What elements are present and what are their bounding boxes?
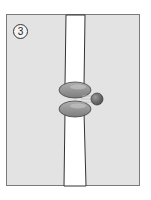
membrane-channel-lower: [64, 112, 86, 186]
lower-subunit-highlight: [70, 104, 86, 109]
step-number-badge: 3: [13, 24, 28, 39]
lower-protein-subunit: [59, 101, 91, 117]
ligand-ball: [91, 93, 103, 105]
membrane-channel-upper: [65, 15, 85, 86]
upper-subunit-highlight: [70, 85, 86, 90]
